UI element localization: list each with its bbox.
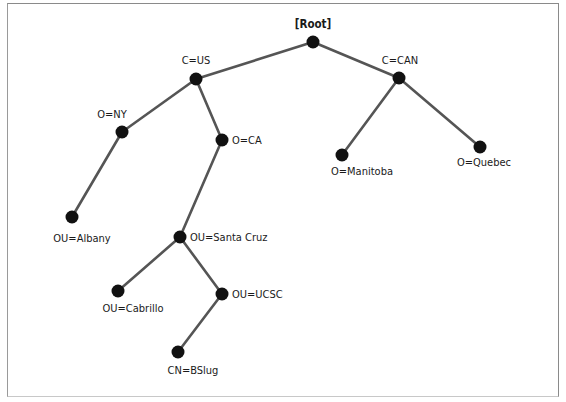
node-c_can (393, 72, 406, 85)
edge-c_us-o_ny (122, 79, 196, 132)
edge-ou_ucsc-cn_bslug (178, 294, 222, 352)
label-cn_bslug: CN=BSlug (168, 364, 219, 377)
label-ou_cabrillo: OU=Cabrillo (103, 302, 164, 315)
node-cn_bslug (172, 346, 185, 359)
label-c_can: C=CAN (382, 54, 418, 67)
node-o_quebec (474, 141, 487, 154)
label-o_ca: O=CA (232, 134, 262, 147)
node-ou_ucsc (216, 288, 229, 301)
node-o_ny (116, 126, 129, 139)
edge-c_us-o_ca (196, 79, 222, 140)
label-root: [Root] (295, 17, 332, 31)
directory-tree-diagram: [Root]C=USC=CANO=NYO=CAO=ManitobaO=Quebe… (0, 0, 566, 402)
node-ou_cabrillo (112, 285, 125, 298)
node-root (307, 36, 320, 49)
node-c_us (190, 73, 203, 86)
label-ou_ucsc: OU=UCSC (232, 288, 283, 301)
edge-o_ca-ou_santacruz (180, 140, 222, 237)
label-o_quebec: O=Quebec (457, 156, 511, 169)
node-ou_santacruz (174, 231, 187, 244)
edge-c_can-o_manitoba (342, 78, 399, 155)
node-ou_albany (66, 211, 79, 224)
node-o_manitoba (336, 149, 349, 162)
tree-labels: [Root]C=USC=CANO=NYO=CAO=ManitobaO=Quebe… (53, 17, 511, 377)
edge-c_can-o_quebec (399, 78, 480, 147)
node-o_ca (216, 134, 229, 147)
label-ou_albany: OU=Albany (53, 232, 110, 245)
label-c_us: C=US (182, 54, 211, 67)
edge-o_ny-ou_albany (72, 132, 122, 217)
edge-ou_santacruz-ou_ucsc (180, 237, 222, 294)
edge-ou_santacruz-ou_cabrillo (118, 237, 180, 291)
label-o_ny: O=NY (97, 108, 127, 121)
label-o_manitoba: O=Manitoba (331, 165, 393, 178)
edge-root-c_us (196, 42, 313, 79)
label-ou_santacruz: OU=Santa Cruz (190, 231, 267, 244)
